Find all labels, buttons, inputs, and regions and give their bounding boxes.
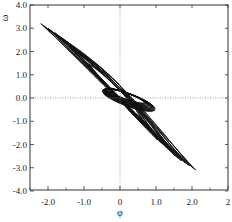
- y-tick-label: 3.0: [16, 23, 28, 33]
- x-tick-label: 2.0: [186, 197, 198, 207]
- x-tick-label: -1.0: [77, 197, 92, 207]
- x-tick-label: -2.0: [41, 197, 56, 207]
- phase-portrait-chart: -2.0-1.001.02.02 4.03.02.01.00.0-1.0-2.0…: [0, 0, 232, 222]
- y-tick-label: 0.0: [16, 93, 28, 103]
- y-tick-label: 4.0: [16, 0, 28, 10]
- x-tick-label: 0: [118, 197, 123, 207]
- y-tick-label: -3.0: [13, 163, 28, 173]
- y-tick-label: 2.0: [16, 47, 28, 57]
- y-axis-label: ω: [0, 14, 10, 21]
- y-tick-label: -1.0: [13, 116, 28, 126]
- y-tick-label: -4.0: [13, 186, 28, 196]
- y-tick-label: -2.0: [13, 140, 28, 150]
- x-tick-label: 2: [226, 197, 231, 207]
- x-axis-label: φ: [117, 207, 123, 218]
- trajectory-series: [41, 24, 196, 171]
- x-tick-label: 1.0: [150, 197, 162, 207]
- y-tick-label: 1.0: [16, 70, 28, 80]
